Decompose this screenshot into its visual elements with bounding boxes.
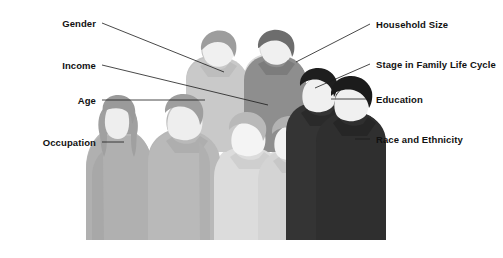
- label-household-size: Household Size: [376, 19, 448, 30]
- label-race-and-ethnicity: Race and Ethnicity: [376, 134, 463, 145]
- leader-line-household-size: [296, 24, 370, 62]
- label-stage-in-family-life-cycle: Stage in Family Life Cycle: [376, 59, 496, 70]
- demographics-illustration: Gender Income Age Occupation Household S…: [0, 0, 503, 258]
- silhouette-artwork: [0, 0, 503, 258]
- label-income: Income: [62, 60, 96, 71]
- label-occupation: Occupation: [43, 137, 96, 148]
- label-gender: Gender: [62, 18, 96, 29]
- label-age: Age: [78, 95, 96, 106]
- label-education: Education: [376, 94, 423, 105]
- person-far-left-long-hair: [86, 95, 153, 240]
